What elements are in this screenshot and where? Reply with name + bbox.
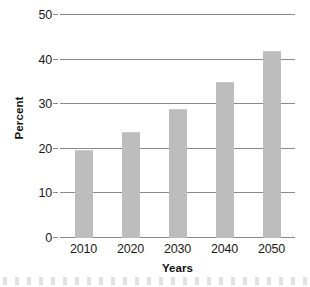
bar-chart-figure: 50 40 30 20 10 0 2010 2020 2030 2040 205… [0, 0, 310, 287]
x-axis-title: Years [60, 262, 295, 274]
bar-2050 [263, 51, 281, 238]
tick-mark-30 [53, 103, 58, 104]
scan-artifact-strip [0, 277, 310, 285]
y-tick-label-10: 10 [38, 187, 52, 200]
x-axis-tick-labels: 2010 2020 2030 2040 2050 [60, 243, 295, 259]
tick-mark-0 [53, 237, 58, 238]
tick-mark-40 [53, 59, 58, 60]
bar-2030 [169, 109, 187, 238]
x-tick-label-2020: 2020 [109, 243, 153, 256]
y-tick-label-0: 0 [45, 232, 52, 245]
x-tick-label-2050: 2050 [250, 243, 294, 256]
y-tick-label-30: 30 [38, 98, 52, 111]
y-tick-label-50: 50 [38, 9, 52, 22]
y-tick-label-40: 40 [38, 54, 52, 67]
bar-2020 [122, 132, 140, 238]
y-tick-label-20: 20 [38, 143, 52, 156]
bar-2040 [216, 82, 234, 238]
x-tick-label-2030: 2030 [156, 243, 200, 256]
tick-mark-20 [53, 148, 58, 149]
y-axis-title: Percent [13, 83, 25, 153]
gridline-40 [60, 59, 295, 60]
tick-mark-10 [53, 192, 58, 193]
gridline-30 [60, 103, 295, 104]
gridline-50 [60, 14, 295, 15]
y-axis-tick-labels: 50 40 30 20 10 0 [28, 15, 52, 238]
x-tick-label-2040: 2040 [203, 243, 247, 256]
x-tick-label-2010: 2010 [62, 243, 106, 256]
tick-mark-50 [53, 14, 58, 15]
bar-2010 [75, 150, 93, 238]
plot-area [60, 15, 295, 238]
